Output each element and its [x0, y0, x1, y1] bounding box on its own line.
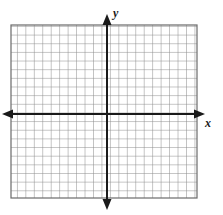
grid-and-axes [0, 0, 223, 215]
x-axis-arrow-left [2, 110, 13, 119]
coordinate-plane: y x [0, 0, 223, 215]
x-axis-arrow-right [194, 110, 205, 119]
x-axis-label: x [205, 117, 211, 129]
grid-background [11, 25, 197, 198]
y-axis-label: y [113, 7, 118, 19]
y-axis-arrow-down [103, 199, 112, 210]
y-axis-arrow-up [103, 14, 112, 25]
